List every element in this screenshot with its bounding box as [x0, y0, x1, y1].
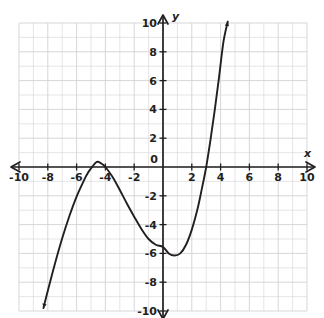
- y-axis-label: y: [172, 10, 180, 23]
- y-tick-label: -6: [145, 247, 158, 260]
- cubic-curve-path: [43, 22, 227, 309]
- y-tick-label: 6: [149, 75, 157, 88]
- x-tick-label: 6: [246, 171, 254, 184]
- y-tick-label: -8: [145, 276, 157, 289]
- origin-label: 0: [150, 153, 158, 166]
- y-tick-label: 8: [149, 46, 157, 59]
- x-tick-label: -2: [128, 171, 140, 184]
- x-tick-label: 8: [274, 171, 282, 184]
- x-tick-label: -6: [70, 171, 83, 184]
- coordinate-graph: -10-8-6-4-20246810108642-2-4-6-8-10 x y: [0, 0, 324, 318]
- axes: [11, 15, 315, 318]
- y-tick-label: 10: [142, 17, 158, 30]
- function-curve: [42, 22, 229, 309]
- x-tick-label: 10: [299, 171, 315, 184]
- x-tick-label: 2: [188, 171, 196, 184]
- graph-canvas: -10-8-6-4-20246810108642-2-4-6-8-10 x y: [0, 0, 324, 318]
- y-tick-label: -4: [145, 219, 158, 232]
- x-axis-label: x: [303, 147, 312, 160]
- x-tick-label: -8: [42, 171, 54, 184]
- x-tick-label: 4: [217, 171, 225, 184]
- y-tick-label: 2: [149, 132, 157, 145]
- x-tick-label: -10: [9, 171, 29, 184]
- y-tick-label: -2: [145, 190, 157, 203]
- y-tick-label: 4: [149, 103, 157, 116]
- y-tick-label: -10: [137, 305, 157, 318]
